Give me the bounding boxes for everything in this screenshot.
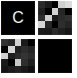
pattern-cell [8,46,15,53]
pattern-cell [21,39,28,46]
pattern-cell [21,46,28,53]
pattern-cell [21,66,28,73]
tile-letter-c[interactable]: C [1,1,35,35]
pattern-cell [52,21,59,28]
pattern-cell [52,15,59,22]
pattern-cell [38,28,45,35]
pattern-cell [15,39,22,46]
pattern-cell [65,15,72,22]
pattern-cell [8,53,15,60]
pattern-cell [15,53,22,60]
pattern-cell [65,8,72,15]
pattern-cell [52,28,59,35]
pattern-cell [58,21,65,28]
pattern-cell [28,59,35,66]
pattern-cell [15,46,22,53]
pattern-cell [28,66,35,73]
letter-glyph: C [12,10,24,26]
pattern-cell [65,21,72,28]
tile-pattern-top-right[interactable] [38,1,72,35]
pattern-cell [8,66,15,73]
pattern-cell [38,8,45,15]
pattern-cell [52,1,59,8]
pattern-cell [65,1,72,8]
pattern-cell [58,15,65,22]
pattern-cell [38,15,45,22]
pattern-cell [1,66,8,73]
pattern-cell [28,46,35,53]
pattern-cell [1,39,8,46]
pattern-cell [1,53,8,60]
pattern-cell [1,59,8,66]
pattern-cell [28,53,35,60]
pattern-cells [38,1,72,35]
tile-pattern-bottom-left[interactable] [1,39,35,73]
pattern-cell [21,53,28,60]
pattern-cell [21,59,28,66]
pattern-cell [45,8,52,15]
pattern-cell [45,28,52,35]
pattern-cell [45,15,52,22]
pattern-cell [58,28,65,35]
pattern-cell [8,59,15,66]
tile-solid-black[interactable] [38,39,72,73]
pattern-cell [65,28,72,35]
pattern-cell [15,59,22,66]
pattern-cell [15,66,22,73]
pattern-cell [45,1,52,8]
pattern-cell [28,39,35,46]
pattern-cell [8,39,15,46]
tile-grid: C [1,1,75,74]
pattern-cell [45,21,52,28]
pattern-cell [38,1,45,8]
pattern-cell [58,8,65,15]
pattern-cell [38,21,45,28]
pattern-cells [1,39,35,73]
pattern-cell [1,46,8,53]
pattern-cell [52,8,59,15]
pattern-cell [58,1,65,8]
